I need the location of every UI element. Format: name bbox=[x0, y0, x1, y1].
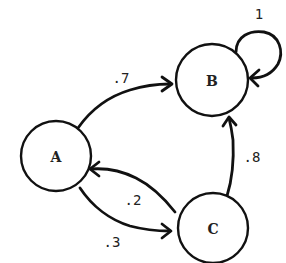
edge-label-a-to-b: .7 bbox=[113, 70, 130, 86]
node-c-label: C bbox=[207, 221, 218, 237]
edge-label-b-to-b: 1 bbox=[255, 6, 263, 22]
edge-label-c-to-a: .2 bbox=[125, 192, 142, 208]
state-diagram: A B C .7 1 .8 .2 .3 bbox=[0, 0, 286, 263]
node-a: A bbox=[21, 121, 91, 191]
edge-label-a-to-c: .3 bbox=[104, 234, 121, 250]
node-a-label: A bbox=[50, 149, 63, 165]
node-b: B bbox=[176, 44, 248, 116]
node-c: C bbox=[178, 193, 248, 263]
node-b-label: B bbox=[206, 73, 218, 89]
edge-label-c-to-b: .8 bbox=[244, 149, 261, 165]
edge-c-to-b bbox=[223, 117, 236, 196]
